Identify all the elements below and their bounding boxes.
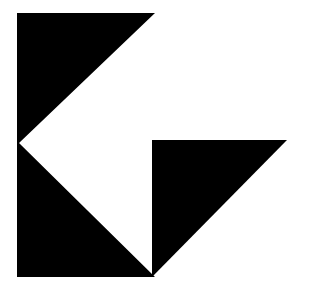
logo-svg — [0, 0, 309, 291]
logo-canvas — [0, 0, 309, 291]
